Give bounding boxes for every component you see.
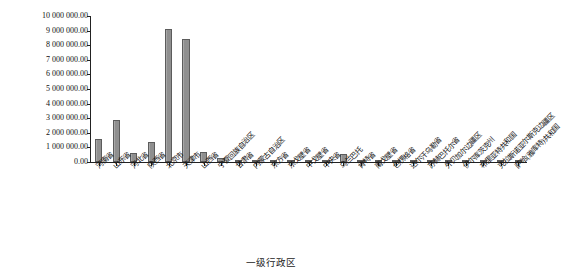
y-axis-tick-label: 9 000 000.00 (18, 27, 88, 35)
bar (165, 29, 172, 162)
y-axis-tick-mark (87, 31, 90, 32)
y-axis-tick-label-group: 10 000 000.009 000 000.008 000 000.007 0… (18, 13, 88, 163)
y-axis-tick-mark (87, 16, 90, 17)
y-axis-line (90, 16, 91, 163)
y-axis-tick-mark (87, 118, 90, 119)
y-axis-tick-label: 7 000 000.00 (18, 56, 88, 64)
y-axis-tick-label: 0.00 (18, 158, 88, 166)
y-axis-tick-label: 6 000 000.00 (18, 70, 88, 78)
y-axis-tick-mark (87, 74, 90, 75)
y-axis-tick-label: 1 000 000.00 (18, 143, 88, 151)
y-axis-tick-mark (87, 60, 90, 61)
y-axis-tick-label: 4 000 000.00 (18, 100, 88, 108)
x-axis-tick-label-group: 河南省山东省河北省陕西省北京市天津市山西省宁夏回族自治区甘肃省内蒙古自治区东方省… (90, 165, 541, 260)
y-axis-tick-mark (87, 147, 90, 148)
x-axis-title-text: 一级行政区 (246, 258, 296, 268)
x-axis-title: 一级行政区 (0, 255, 541, 269)
y-axis-tick-mark (87, 104, 90, 105)
y-axis-tick-label: 3 000 000.00 (18, 114, 88, 122)
y-axis-tick-mark (87, 45, 90, 46)
y-axis-tick-label: 8 000 000.00 (18, 41, 88, 49)
y-axis-tick-label: 5 000 000.00 (18, 85, 88, 93)
bar (182, 39, 189, 162)
y-axis-tick-mark (87, 162, 90, 163)
y-axis-tick-label: 2 000 000.00 (18, 129, 88, 137)
y-axis-tick-label: 10 000 000.00 (18, 12, 88, 20)
y-axis-tick-mark (87, 89, 90, 90)
y-axis-tick-mark (87, 133, 90, 134)
